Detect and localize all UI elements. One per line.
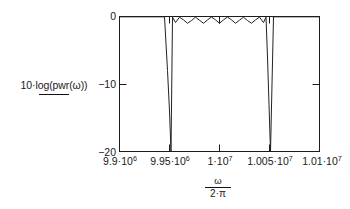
x-tick-times: ·10: [213, 155, 228, 167]
x-tick-mantissa: 9.95: [150, 155, 170, 167]
x-tick-marks: [170, 17, 270, 152]
x-tick-mantissa: 1.005: [247, 155, 273, 167]
x-tick-exponent: 7: [229, 154, 233, 163]
x-tick-exponent: 7: [338, 154, 342, 163]
x-tick-times: ·10: [274, 155, 289, 167]
x-tick-times: ·10: [118, 155, 133, 167]
x-tick-exponent: 6: [186, 154, 190, 163]
x-tick-label-2: 9.95·106: [140, 156, 200, 167]
frequency-response-figure: 10·log(pwr(ω)) 0 −10 −20 9.9·106 9.95·10…: [0, 0, 350, 209]
plot-frame: [120, 17, 320, 152]
plot-canvas: [0, 0, 350, 209]
x-axis-title-denominator: 2·π: [196, 188, 240, 199]
x-axis-title-numerator: ω: [196, 176, 240, 187]
x-tick-times: ·10: [171, 155, 186, 167]
x-tick-mantissa: 9.9: [103, 155, 118, 167]
x-tick-label-1: 9.9·106: [93, 156, 147, 167]
x-tick-label-5: 1.01·107: [293, 156, 350, 167]
x-tick-mantissa: 1.01: [302, 155, 322, 167]
x-tick-times: ·10: [323, 155, 338, 167]
x-tick-exponent: 6: [133, 154, 137, 163]
x-axis-title: ω 2·π: [196, 176, 240, 199]
spectrum-trace: [120, 17, 320, 152]
